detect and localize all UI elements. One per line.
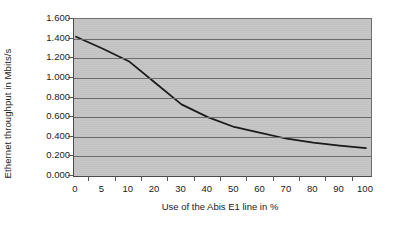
y-tick-label: 0.800 bbox=[24, 92, 70, 102]
y-tick-mark bbox=[68, 116, 73, 117]
x-tick-mark bbox=[88, 176, 89, 181]
x-tick-label: 5 bbox=[99, 183, 104, 195]
x-tick-mark bbox=[299, 176, 300, 181]
x-tick-label: 100 bbox=[357, 183, 373, 195]
x-tick-label: 30 bbox=[175, 183, 186, 195]
x-tick-label: 0 bbox=[72, 183, 77, 195]
y-tick-mark bbox=[68, 18, 73, 19]
x-axis-title: Use of the Abis E1 line in % bbox=[60, 201, 380, 212]
y-tick-label: 0.200 bbox=[24, 150, 70, 160]
x-tick-mark bbox=[352, 176, 353, 181]
x-tick-mark bbox=[246, 176, 247, 181]
x-axis-tick-marks bbox=[73, 176, 372, 182]
y-tick-mark bbox=[68, 175, 73, 176]
y-tick-label: 0.000 bbox=[24, 170, 70, 180]
gridline bbox=[74, 58, 371, 59]
y-tick-mark bbox=[68, 38, 73, 39]
x-tick-mark bbox=[167, 176, 168, 181]
x-tick-label: 60 bbox=[254, 183, 265, 195]
gridline bbox=[74, 137, 371, 138]
gridline bbox=[74, 78, 371, 79]
y-tick-mark bbox=[68, 155, 73, 156]
y-tick-mark bbox=[68, 57, 73, 58]
gridline bbox=[74, 156, 371, 157]
chart-figure: Ethernet throughput in Mbits/s 1.6001.40… bbox=[0, 0, 394, 227]
gridline bbox=[74, 98, 371, 99]
y-tick-mark bbox=[68, 77, 73, 78]
y-tick-label: 1.600 bbox=[24, 13, 70, 23]
x-tick-label: 80 bbox=[307, 183, 318, 195]
gridline bbox=[74, 39, 371, 40]
x-tick-mark bbox=[273, 176, 274, 181]
x-tick-label: 50 bbox=[228, 183, 239, 195]
x-axis-tick-labels: 05102030405060708090100 bbox=[73, 183, 372, 196]
y-tick-mark bbox=[68, 97, 73, 98]
x-tick-mark bbox=[194, 176, 195, 181]
x-tick-mark bbox=[115, 176, 116, 181]
plot-area bbox=[73, 18, 372, 177]
x-tick-mark bbox=[141, 176, 142, 181]
y-tick-label: 0.600 bbox=[24, 111, 70, 121]
x-tick-label: 90 bbox=[333, 183, 344, 195]
y-tick-label: 1.000 bbox=[24, 72, 70, 82]
x-tick-mark bbox=[325, 176, 326, 181]
x-tick-mark bbox=[220, 176, 221, 181]
x-tick-label: 40 bbox=[202, 183, 213, 195]
y-tick-mark bbox=[68, 136, 73, 137]
gridline bbox=[74, 117, 371, 118]
y-axis-title: Ethernet throughput in Mbits/s bbox=[0, 0, 16, 227]
y-tick-label: 0.400 bbox=[24, 131, 70, 141]
y-tick-label: 1.200 bbox=[24, 52, 70, 62]
y-axis-tick-labels: 1.6001.4001.2001.0000.8000.6000.4000.200… bbox=[24, 0, 70, 227]
x-tick-label: 10 bbox=[122, 183, 133, 195]
x-tick-label: 20 bbox=[149, 183, 160, 195]
x-tick-label: 70 bbox=[281, 183, 292, 195]
y-tick-label: 1.400 bbox=[24, 33, 70, 43]
